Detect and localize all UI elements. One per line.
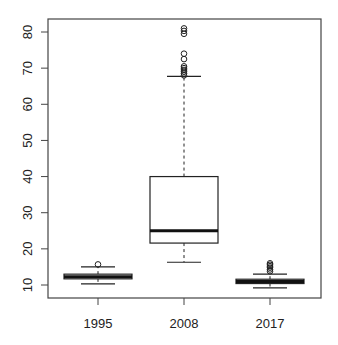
box-2008 (150, 26, 218, 263)
x-tick-label: 1995 (84, 316, 113, 331)
box-2017 (236, 261, 304, 288)
y-tick-label: 20 (20, 242, 35, 256)
y-tick-label: 70 (20, 61, 35, 75)
outlier-point (181, 56, 187, 62)
y-axis: 1020304050607080 (20, 25, 48, 292)
y-tick-label: 60 (20, 97, 35, 111)
y-tick-label: 50 (20, 133, 35, 147)
x-axis: 199520082017 (84, 298, 285, 331)
y-tick-label: 30 (20, 205, 35, 219)
box-1995 (64, 262, 132, 284)
iqr-box (150, 177, 218, 244)
x-tick-label: 2017 (256, 316, 285, 331)
outlier-point (181, 51, 187, 57)
boxplot-chart: 1020304050607080 199520082017 (0, 0, 338, 345)
boxes-layer (64, 26, 304, 288)
y-tick-label: 10 (20, 278, 35, 292)
y-tick-label: 80 (20, 25, 35, 39)
x-tick-label: 2008 (170, 316, 199, 331)
y-tick-label: 40 (20, 169, 35, 183)
